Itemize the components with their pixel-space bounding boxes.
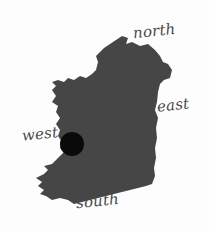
ireland-landmass [36, 36, 172, 204]
label-east: east [156, 96, 190, 114]
ireland-map: north east west south [0, 0, 209, 231]
location-marker [60, 132, 84, 156]
label-west: west [21, 125, 59, 144]
label-north: north [132, 22, 176, 41]
label-south: south [75, 192, 119, 211]
